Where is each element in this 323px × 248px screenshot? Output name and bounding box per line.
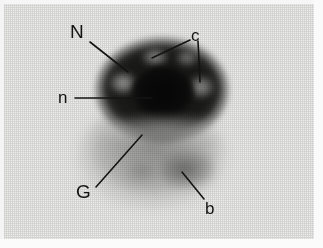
micrograph-figure: N c n G b bbox=[0, 0, 323, 248]
label-golgi: G bbox=[76, 182, 91, 201]
photographic-plate: N c n G b bbox=[0, 0, 323, 248]
label-nucleus: N bbox=[70, 22, 84, 41]
plate-margin-top bbox=[0, 0, 323, 4]
label-chromocenter: c bbox=[191, 27, 200, 44]
plate-margin-bottom bbox=[0, 239, 323, 248]
plate-margin-left bbox=[0, 0, 4, 248]
plate-margin-right bbox=[314, 0, 323, 248]
label-basal-body: b bbox=[205, 200, 214, 217]
annotation-layer: N c n G b bbox=[0, 0, 323, 248]
label-nucleolus: n bbox=[58, 89, 67, 106]
